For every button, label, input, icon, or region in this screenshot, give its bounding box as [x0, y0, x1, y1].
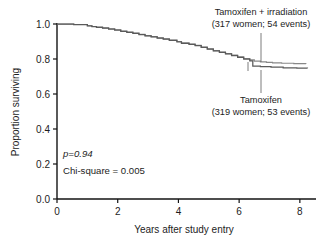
y-axis-title: Proportion surviving [10, 68, 21, 156]
curves-group [57, 24, 307, 68]
curve-tamoxifen [57, 24, 307, 68]
statistics-block: p=0.94 Chi-square = 0.005 [62, 148, 145, 176]
annotation-tamoxifen-line2: (319 women; 53 events) [212, 107, 311, 117]
x-tick-label-3: 6 [236, 206, 242, 217]
leader-lines-group [248, 33, 261, 93]
x-tick-label-2: 4 [176, 206, 182, 217]
y-tick-label-1: 0.2 [36, 159, 50, 170]
kaplan-meier-plot: 0.00.20.40.60.81.0 02468 Proportion surv… [0, 0, 332, 243]
y-axis-tick-labels: 0.00.20.40.60.81.0 [36, 19, 50, 205]
x-axis-title: Years after study entry [134, 224, 234, 235]
p-value-label: p=0.94 [62, 148, 93, 159]
annotation-tamoxifen-irradiation-line2: (317 women; 54 events) [212, 19, 311, 29]
x-axis-tick-labels: 02468 [54, 206, 303, 217]
survival-chart-figure: 0.00.20.40.60.81.0 02468 Proportion surv… [0, 0, 332, 243]
x-tick-label-1: 2 [115, 206, 121, 217]
y-tick-label-5: 1.0 [36, 19, 50, 30]
y-tick-label-3: 0.6 [36, 89, 50, 100]
annotation-tamoxifen-irradiation: Tamoxifen + irradiation (317 women; 54 e… [212, 7, 311, 29]
y-tick-label-0: 0.0 [36, 194, 50, 205]
y-tick-label-2: 0.4 [36, 124, 50, 135]
annotation-tamoxifen-line1: Tamoxifen [240, 95, 282, 105]
y-tick-label-4: 0.8 [36, 54, 50, 65]
annotation-tamoxifen-irradiation-line1: Tamoxifen + irradiation [215, 7, 308, 17]
x-tick-label-4: 8 [297, 206, 303, 217]
x-tick-label-0: 0 [54, 206, 60, 217]
annotation-tamoxifen: Tamoxifen (319 women; 53 events) [212, 95, 311, 117]
chi-square-text: Chi-square = 0.005 [63, 165, 145, 176]
p-value-text: p=0.94 [62, 148, 93, 159]
